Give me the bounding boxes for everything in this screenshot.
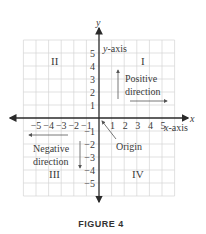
y-tick-label: −2 [84, 139, 95, 150]
positive-direction-label: direction [125, 86, 161, 97]
x-tick-label: 3 [135, 120, 140, 131]
x-tick-label: 1 [110, 120, 115, 131]
negative-direction-label: direction [33, 156, 69, 167]
quadrant-I-label: I [141, 55, 145, 67]
x-tick-label: 2 [123, 120, 128, 131]
x-tick-label: 5 [161, 120, 166, 131]
y-tick-label: 4 [90, 61, 95, 72]
coordinate-plane-figure: y x y-axis x-axis II I III IV −5−4−3−2−1… [0, 0, 206, 234]
y-tick-label: 3 [90, 74, 95, 85]
origin-label: Origin [116, 141, 142, 152]
y-tick-label: −3 [84, 152, 95, 163]
figure-caption: FIGURE 4 [78, 219, 124, 229]
x-tick-label: −2 [68, 120, 79, 131]
negative-direction-label: Negative [33, 143, 70, 154]
quadrant-II-label: II [51, 55, 59, 67]
x-axis-letter: x [189, 113, 195, 124]
y-tick-label: −5 [84, 178, 95, 189]
x-tick-label: −3 [56, 120, 67, 131]
x-tick-label: −5 [31, 120, 42, 131]
x-axis-name: x-axis [163, 122, 188, 133]
quadrant-IV-label: IV [132, 168, 144, 180]
quadrant-III-label: III [49, 168, 60, 180]
y-tick-label: 1 [90, 100, 95, 111]
y-axis-letter: y [95, 17, 101, 28]
x-tick-label: 4 [148, 120, 153, 131]
x-tick-label: −4 [43, 120, 54, 131]
positive-direction-label: Positive [125, 73, 158, 84]
y-tick-label: 2 [90, 87, 95, 98]
y-tick-label: 5 [90, 48, 95, 59]
y-axis-name: y-axis [102, 43, 127, 54]
y-tick-label: −1 [84, 126, 95, 137]
y-tick-label: −4 [84, 165, 95, 176]
